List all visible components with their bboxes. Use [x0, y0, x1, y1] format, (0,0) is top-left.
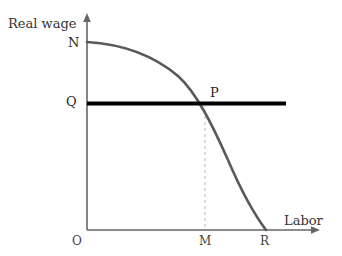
labor-demand-curve [87, 42, 266, 230]
diagram-canvas: Real wage Labor N Q P M R O [0, 0, 342, 256]
x-axis-label: Labor [284, 214, 323, 227]
point-label-m: M [199, 235, 211, 247]
y-axis-label: Real wage [8, 17, 76, 30]
origin-label: O [72, 235, 82, 247]
point-label-q: Q [66, 95, 77, 108]
point-label-p: P [210, 86, 219, 99]
point-label-r: R [260, 235, 269, 247]
point-label-n: N [68, 36, 79, 49]
y-axis-arrow-icon [83, 13, 91, 22]
y-axis [83, 13, 91, 230]
